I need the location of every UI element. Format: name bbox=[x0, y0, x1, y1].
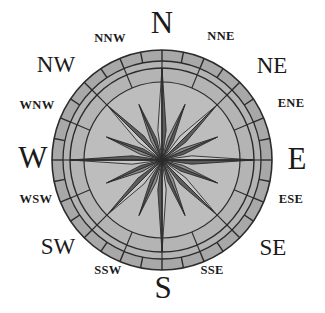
compass-label-south-southwest: SSW bbox=[94, 264, 121, 277]
compass-label-northwest: NW bbox=[37, 53, 75, 76]
compass-label-west-northwest: WNW bbox=[20, 99, 55, 112]
compass-label-north-northwest: NNW bbox=[94, 32, 125, 45]
compass-label-northeast: NE bbox=[257, 54, 288, 77]
rose-root bbox=[52, 50, 272, 270]
compass-label-southeast: SE bbox=[260, 236, 287, 259]
compass-label-south: S bbox=[154, 272, 171, 303]
compass-label-southwest: SW bbox=[41, 235, 76, 258]
compass-label-east: E bbox=[288, 143, 307, 174]
compass-label-east-northeast: ENE bbox=[278, 97, 305, 110]
compass-label-east-southeast: ESE bbox=[279, 193, 304, 206]
compass-rose-figure: NESWNESESWNWNNEENEESESSESSWWSWWNWNNW bbox=[0, 0, 325, 313]
compass-rose-graphic bbox=[0, 0, 325, 313]
compass-label-west-southwest: WSW bbox=[20, 193, 53, 206]
compass-label-south-southeast: SSE bbox=[200, 264, 223, 277]
compass-label-north: N bbox=[151, 7, 173, 38]
compass-label-north-northeast: NNE bbox=[207, 30, 234, 43]
compass-label-west: W bbox=[18, 142, 47, 173]
